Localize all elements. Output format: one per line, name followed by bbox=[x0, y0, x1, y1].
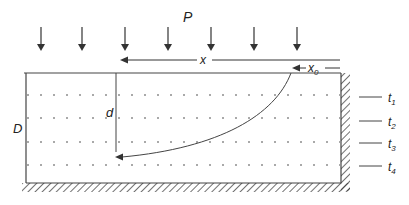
load-arrows bbox=[37, 27, 301, 51]
load-arrow-icon bbox=[121, 27, 129, 51]
t3-label: t3 bbox=[388, 137, 396, 153]
load-arrow-icon bbox=[37, 27, 45, 51]
load-arrow-icon bbox=[250, 27, 258, 51]
layer-labels: t1 t2 t3 t4 bbox=[359, 91, 396, 176]
wetting-front-curve bbox=[122, 73, 291, 157]
t2-label: t2 bbox=[388, 115, 396, 131]
x-label: x bbox=[199, 53, 207, 67]
load-arrow-icon bbox=[207, 27, 215, 51]
D-label: D bbox=[13, 121, 22, 136]
diagram-canvas: P x x0 d D bbox=[0, 0, 409, 205]
t1-label: t1 bbox=[388, 91, 396, 107]
right-wall-hatch bbox=[341, 73, 350, 191]
load-arrow-icon bbox=[293, 27, 301, 51]
load-arrow-icon bbox=[78, 27, 86, 51]
x-dimension: x bbox=[120, 53, 340, 67]
load-arrow-icon bbox=[164, 27, 172, 51]
curve-arrowhead-icon bbox=[115, 154, 123, 161]
x0-label: x0 bbox=[307, 61, 319, 77]
layer-interfaces bbox=[27, 95, 340, 165]
load-label: P bbox=[183, 9, 193, 25]
x0-dimension: x0 bbox=[292, 61, 340, 77]
t4-label: t4 bbox=[388, 160, 396, 176]
d-label: d bbox=[106, 105, 114, 120]
base-hatch bbox=[22, 183, 350, 192]
